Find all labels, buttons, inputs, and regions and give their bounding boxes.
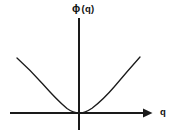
x-axis-arrowhead-icon	[143, 108, 153, 117]
figure-container: ϕ(q) q	[0, 0, 174, 138]
x-axis-label: q	[160, 107, 166, 117]
y-axis-label: ϕ(q)	[72, 3, 95, 14]
plot-canvas	[0, 0, 174, 138]
phi-symbol: ϕ	[72, 2, 81, 14]
phi-argument: (q)	[82, 3, 95, 14]
